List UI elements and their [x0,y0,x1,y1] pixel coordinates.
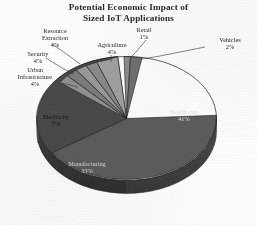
pie-label-security: Security 4% [14,50,62,64]
pie-label-resource-extraction: Resource Extraction 4% [24,27,86,49]
pie-label-urban-name2: Infrastructure [6,73,64,80]
pie-label-security-pct: 4% [14,57,62,64]
pie-chart-figure: Potential Economic Impact of Sized IoT A… [0,0,257,225]
pie-label-agriculture-pct: 4% [86,48,138,55]
pie-label-health-care: Health care 41% [158,108,210,122]
pie-label-electricity-pct: 7% [32,120,80,127]
pie-label-agriculture: Agriculture 4% [86,41,138,55]
pie-label-manufacturing-pct: 33% [56,167,118,174]
pie-label-retail-pct: 1% [120,33,168,40]
pie-label-vehicles-pct: 2% [206,43,254,50]
pie-label-urban-infrastructure: Urban Infrastructure 4% [6,66,64,88]
leader-line-vehicles [142,47,205,59]
pie-label-vehicles: Vehicles 2% [206,36,254,50]
pie-label-security-name: Security [14,50,62,57]
pie-label-electricity-name: Electricity [32,113,80,120]
pie-label-retail-name: Retail [120,26,168,33]
pie-label-urban-pct: 4% [6,80,64,87]
pie-label-urban-name: Urban [6,66,64,73]
pie-label-health-care-pct: 41% [158,115,210,122]
pie-label-resource-extraction-name: Resource [24,27,86,34]
pie-label-resource-extraction-pct: 4% [24,41,86,48]
pie-label-resource-extraction-name2: Extraction [24,34,86,41]
pie-label-electricity: Electricity 7% [32,113,80,127]
pie-label-manufacturing: Manufacturing 33% [56,160,118,174]
pie-label-agriculture-name: Agriculture [86,41,138,48]
pie-label-vehicles-name: Vehicles [206,36,254,43]
pie-label-health-care-name: Health care [158,108,210,115]
pie-label-manufacturing-name: Manufacturing [56,160,118,167]
pie-label-retail: Retail 1% [120,26,168,40]
